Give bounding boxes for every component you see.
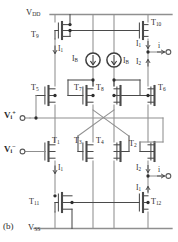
input-label-vi-minus: Vi− — [4, 145, 16, 154]
dot-vi-plus-riser — [34, 116, 37, 119]
current-label-I1-bottomright: I1 — [136, 184, 141, 192]
dot-T7-gate-node — [91, 78, 94, 81]
current-label-i-bottom: i — [158, 166, 160, 174]
terminal-output-bottom — [166, 174, 171, 179]
junction-dots — [34, 23, 149, 204]
current-label-I1-topright: I1 — [136, 40, 141, 48]
dot-output-top — [146, 50, 149, 53]
dot-T11-gate-node — [70, 201, 73, 204]
current-source-IB-left — [86, 53, 100, 67]
transistor-label-T10: T10 — [151, 19, 161, 27]
current-label-I2-topright: I2 — [136, 58, 141, 66]
transistor-T8 — [114, 80, 140, 105]
dot-output-bottom — [146, 174, 149, 177]
transistor-T12 — [72, 193, 148, 212]
current-label-IB-right: IB — [123, 57, 129, 65]
current-label-IB-left: IB — [72, 55, 78, 63]
transistor-T10 — [70, 22, 148, 39]
dot-T11-drain — [53, 194, 56, 197]
dot-T7-bulk-node — [91, 94, 94, 97]
current-source-IB-right — [107, 53, 121, 67]
terminal-vi-plus — [20, 116, 25, 121]
terminal-vi-minus — [20, 149, 25, 154]
transistor-T9 — [55, 15, 70, 40]
transistor-T2 — [140, 142, 155, 161]
wire-cross-right-to-left — [93, 110, 129, 136]
transistor-label-T1: T1 — [52, 137, 60, 145]
current-label-I1-bottomleft: I1 — [58, 164, 63, 172]
input-label-vi-plus: Vi+ — [4, 111, 16, 120]
vss-rail-label: VSS — [28, 223, 41, 232]
dot-T9-gate-node — [68, 29, 71, 32]
transistor-label-T5: T5 — [31, 84, 39, 92]
dot-T8-gate-node — [112, 78, 115, 81]
transistor-label-T12: T12 — [151, 198, 161, 206]
transistor-T4 — [114, 136, 129, 161]
current-label-i-top: i — [158, 42, 160, 50]
current-label-I1-topleft: I1 — [58, 45, 63, 53]
dot-T6-gate-bus — [146, 94, 149, 97]
transistor-label-T11: T11 — [29, 198, 39, 206]
transistor-label-T8: T8 — [96, 84, 104, 92]
panel-label: (b) — [3, 222, 14, 231]
current-label-I2-bottomright: I2 — [136, 164, 141, 172]
transistor-label-T6: T6 — [158, 84, 166, 92]
transistor-label-T9: T9 — [31, 31, 39, 39]
dot-T9-drain-vdd — [68, 23, 71, 26]
terminal-output-top — [166, 50, 171, 55]
vdd-rail-label: VDD — [26, 8, 40, 17]
dot-T5-gate-bus — [53, 94, 56, 97]
transistor-label-T3: T3 — [74, 137, 82, 145]
wire-cross-left-to-right — [78, 110, 114, 136]
dot-T8-bulk-node — [112, 94, 115, 97]
transistor-T11 — [55, 193, 72, 229]
figure-panel: VDD VSS T9 T10 T5 T7 T8 T6 T1 T3 T4 T2 T… — [0, 0, 178, 242]
transistor-label-T4: T4 — [96, 137, 104, 145]
transistor-label-T2: T2 — [129, 140, 137, 148]
dot-T12-gate-bus — [146, 201, 149, 204]
transistor-label-T7: T7 — [74, 84, 82, 92]
